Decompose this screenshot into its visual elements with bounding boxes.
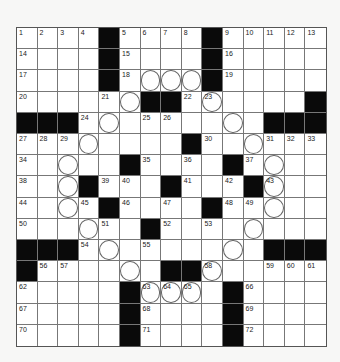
grid-cell[interactable]	[285, 70, 306, 91]
grid-cell[interactable]	[38, 198, 59, 219]
grid-cell[interactable]: 8	[182, 28, 203, 49]
grid-cell[interactable]	[141, 261, 162, 282]
grid-cell[interactable]: 31	[264, 134, 285, 155]
grid-cell[interactable]: 42	[223, 176, 244, 197]
circled-grid-cell[interactable]: 64	[161, 282, 182, 303]
circled-grid-cell[interactable]	[244, 219, 265, 240]
grid-cell[interactable]: 16	[223, 49, 244, 70]
circled-grid-cell[interactable]	[58, 198, 79, 219]
grid-cell[interactable]: 25	[141, 113, 162, 134]
grid-cell[interactable]	[79, 325, 100, 346]
grid-cell[interactable]: 48	[223, 198, 244, 219]
grid-cell[interactable]: 52	[161, 219, 182, 240]
grid-cell[interactable]	[182, 219, 203, 240]
grid-cell[interactable]	[244, 113, 265, 134]
grid-cell[interactable]: 20	[17, 92, 38, 113]
grid-cell[interactable]: 5	[120, 28, 141, 49]
grid-cell[interactable]	[264, 49, 285, 70]
grid-cell[interactable]	[182, 49, 203, 70]
grid-cell[interactable]	[305, 325, 326, 346]
circled-grid-cell[interactable]	[223, 113, 244, 134]
grid-cell[interactable]: 72	[244, 325, 265, 346]
grid-cell[interactable]	[141, 49, 162, 70]
grid-cell[interactable]	[264, 325, 285, 346]
grid-cell[interactable]: 59	[264, 261, 285, 282]
grid-cell[interactable]	[38, 282, 59, 303]
grid-cell[interactable]	[79, 304, 100, 325]
grid-cell[interactable]	[305, 176, 326, 197]
grid-cell[interactable]	[285, 304, 306, 325]
grid-cell[interactable]	[244, 70, 265, 91]
grid-cell[interactable]	[99, 304, 120, 325]
grid-cell[interactable]	[79, 155, 100, 176]
grid-cell[interactable]	[38, 70, 59, 91]
grid-cell[interactable]: 3	[58, 28, 79, 49]
grid-cell[interactable]	[161, 49, 182, 70]
grid-cell[interactable]	[305, 70, 326, 91]
grid-cell[interactable]: 61	[305, 261, 326, 282]
grid-cell[interactable]	[58, 304, 79, 325]
circled-grid-cell[interactable]: 65	[182, 282, 203, 303]
grid-cell[interactable]	[79, 49, 100, 70]
grid-cell[interactable]	[264, 282, 285, 303]
grid-cell[interactable]	[285, 198, 306, 219]
grid-cell[interactable]	[99, 155, 120, 176]
circled-grid-cell[interactable]	[161, 70, 182, 91]
grid-cell[interactable]: 50	[17, 219, 38, 240]
grid-cell[interactable]: 32	[285, 134, 306, 155]
grid-cell[interactable]: 47	[161, 198, 182, 219]
grid-cell[interactable]	[99, 261, 120, 282]
grid-cell[interactable]	[120, 240, 141, 261]
grid-cell[interactable]	[38, 219, 59, 240]
grid-cell[interactable]	[202, 282, 223, 303]
grid-cell[interactable]: 11	[264, 28, 285, 49]
grid-cell[interactable]	[38, 155, 59, 176]
grid-cell[interactable]: 15	[120, 49, 141, 70]
grid-cell[interactable]	[120, 113, 141, 134]
grid-cell[interactable]	[264, 70, 285, 91]
grid-cell[interactable]: 28	[38, 134, 59, 155]
grid-cell[interactable]: 10	[244, 28, 265, 49]
grid-cell[interactable]: 26	[161, 113, 182, 134]
grid-cell[interactable]: 35	[141, 155, 162, 176]
grid-cell[interactable]	[141, 176, 162, 197]
grid-cell[interactable]	[202, 240, 223, 261]
grid-cell[interactable]: 13	[305, 28, 326, 49]
grid-cell[interactable]: 27	[17, 134, 38, 155]
grid-cell[interactable]	[141, 198, 162, 219]
grid-cell[interactable]: 68	[141, 304, 162, 325]
circled-grid-cell[interactable]	[58, 155, 79, 176]
grid-cell[interactable]: 49	[244, 198, 265, 219]
grid-cell[interactable]	[264, 92, 285, 113]
grid-cell[interactable]: 18	[120, 70, 141, 91]
grid-cell[interactable]	[285, 325, 306, 346]
grid-cell[interactable]	[120, 134, 141, 155]
grid-cell[interactable]: 14	[17, 49, 38, 70]
grid-cell[interactable]: 53	[202, 219, 223, 240]
grid-cell[interactable]	[182, 113, 203, 134]
grid-cell[interactable]	[120, 219, 141, 240]
circled-grid-cell[interactable]	[244, 134, 265, 155]
circled-grid-cell[interactable]	[182, 70, 203, 91]
grid-cell[interactable]	[223, 92, 244, 113]
circled-grid-cell[interactable]	[79, 219, 100, 240]
grid-cell[interactable]: 37	[244, 155, 265, 176]
grid-cell[interactable]	[202, 304, 223, 325]
grid-cell[interactable]	[285, 155, 306, 176]
grid-cell[interactable]	[58, 70, 79, 91]
circled-grid-cell[interactable]: 58	[202, 261, 223, 282]
grid-cell[interactable]: 1	[17, 28, 38, 49]
grid-cell[interactable]: 17	[17, 70, 38, 91]
grid-cell[interactable]	[79, 70, 100, 91]
grid-cell[interactable]	[223, 134, 244, 155]
circled-grid-cell[interactable]: 23	[202, 92, 223, 113]
grid-cell[interactable]	[285, 92, 306, 113]
grid-cell[interactable]: 39	[99, 176, 120, 197]
grid-cell[interactable]: 12	[285, 28, 306, 49]
grid-cell[interactable]: 2	[38, 28, 59, 49]
grid-cell[interactable]: 71	[141, 325, 162, 346]
grid-cell[interactable]: 36	[182, 155, 203, 176]
grid-cell[interactable]	[285, 49, 306, 70]
grid-cell[interactable]	[305, 304, 326, 325]
grid-cell[interactable]: 6	[141, 28, 162, 49]
